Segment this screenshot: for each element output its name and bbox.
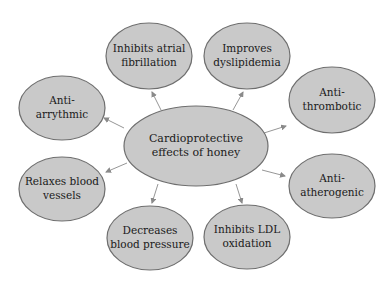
node-label-line2: oxidation [222,237,271,249]
node-label-line1: Relaxes blood [25,175,99,187]
node-label-line1: Decreases [123,224,178,236]
node-improves-dyslipidemia: Improves dyslipidemia [204,23,290,89]
node-inhibits-ldl-oxidation: Inhibits LDL oxidation [204,205,290,269]
node-relaxes-blood-vessels: Relaxes blood vessels [19,157,105,221]
arrow-to-blood-pressure [152,184,158,203]
node-anti-thrombotic: Anti- thrombotic [289,67,375,133]
node-decreases-blood-pressure: Decreases blood pressure [107,206,193,270]
node-anti-arrythmic: Anti- arrythmic [19,76,105,140]
node-label-line2: fibrillation [121,56,177,68]
node-label-line2: arrythmic [36,108,89,120]
node-label-line2: atherogenic [300,186,364,198]
honey-cardioprotective-diagram: Cardioprotective effects of honey Inhibi… [0,0,392,286]
node-label-line1: Anti- [318,86,345,98]
node-label-line1: Improves [222,42,272,54]
arrow-to-anti-atherogenic [262,170,285,176]
node-anti-atherogenic: Anti- atherogenic [289,154,375,218]
arrow-to-ldl-oxidation [236,184,242,203]
node-label-line2: dyslipidemia [213,56,280,68]
node-label-line2: vessels [42,189,81,201]
arrow-to-dyslipidemia [233,92,243,110]
central-node: Cardioprotective effects of honey [124,106,268,186]
arrow-to-anti-arrythmic [104,118,124,128]
central-node-line2: effects of honey [152,146,241,159]
node-label-line2: thrombotic [303,100,362,112]
node-label-line1: Inhibits LDL [214,223,280,235]
central-node-line1: Cardioprotective [149,132,243,145]
arrow-to-relaxes-vessels [106,163,127,172]
node-inhibits-atrial-fibrillation: Inhibits atrial fibrillation [106,23,192,89]
node-label-line2: blood pressure [110,238,190,250]
node-label-line1: Inhibits atrial [113,42,186,54]
arrow-to-anti-thrombotic [264,126,286,133]
node-label-line1: Anti- [48,94,75,106]
arrow-to-atrial-fibrillation [152,92,161,110]
node-label-line1: Anti- [318,172,345,184]
